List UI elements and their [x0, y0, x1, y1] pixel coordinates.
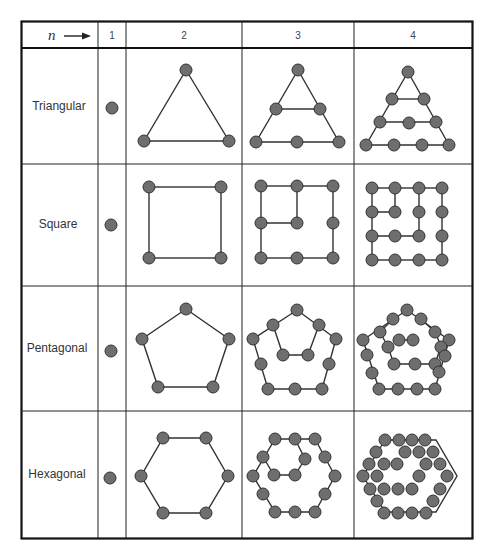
hexagonal-dots	[104, 432, 453, 519]
n-label: n	[48, 27, 56, 43]
row-label-pentagonal: Pentagonal	[27, 341, 88, 355]
column-header-4: 4	[410, 30, 416, 41]
column-header-3: 3	[295, 30, 301, 41]
triangular-figures	[144, 70, 449, 145]
figurate-numbers-table: n 1 2 3 4 Triangular Square Pentagonal H…	[0, 0, 488, 554]
pentagonal-figures	[142, 309, 449, 389]
pentagonal-dots	[105, 303, 455, 395]
row-label-hexagonal: Hexagonal	[28, 467, 85, 481]
arrow-right-icon	[64, 33, 91, 40]
row-label-square: Square	[39, 217, 78, 231]
row-label-triangular: Triangular	[32, 99, 86, 113]
column-header-2: 2	[181, 30, 187, 41]
column-header-1: 1	[109, 30, 115, 41]
triangular-dots	[106, 64, 455, 151]
